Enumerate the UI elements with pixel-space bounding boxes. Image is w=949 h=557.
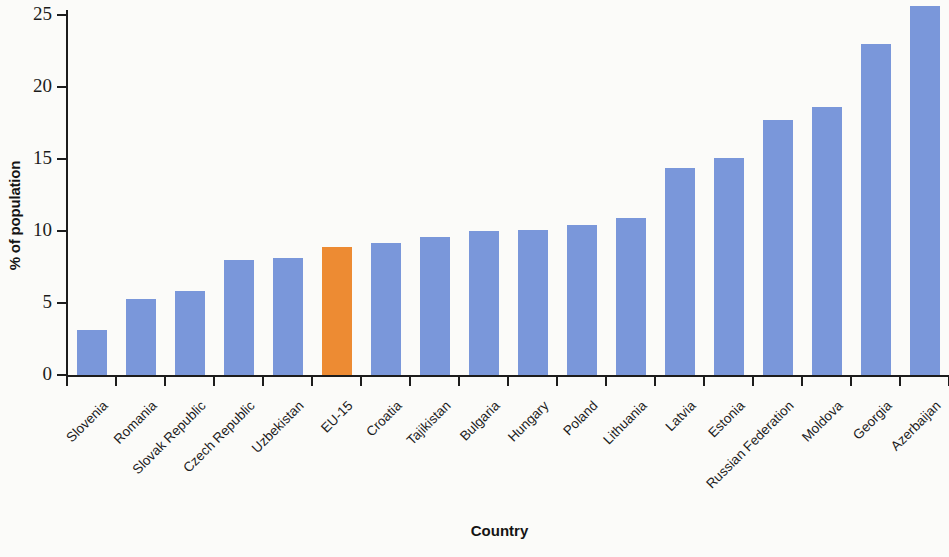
x-axis-label-eu-15: EU-15	[317, 398, 355, 436]
x-axis-label-moldova: Moldova	[798, 398, 845, 445]
bar-slovak-republic[interactable]	[175, 291, 205, 375]
x-axis-label-romania: Romania	[110, 398, 159, 447]
x-axis-tick	[66, 376, 68, 386]
x-axis-title-text: Country	[471, 522, 529, 539]
bar-poland[interactable]	[567, 225, 597, 375]
bar-russian-federation[interactable]	[763, 120, 793, 375]
x-axis-label-lithuania: Lithuania	[600, 398, 649, 447]
y-axis-tick: 10	[57, 230, 66, 232]
chart-canvas: % of population 0510152025 SloveniaRoman…	[0, 0, 949, 557]
x-axis-tick	[262, 376, 264, 386]
y-axis-tick: 20	[57, 86, 66, 88]
x-axis-label-latvia: Latvia	[662, 398, 698, 434]
x-axis-label-bulgaria: Bulgaria	[456, 398, 502, 444]
x-axis-label-azerbaijan: Azerbaijan	[887, 398, 943, 454]
x-axis-tick	[311, 376, 313, 386]
x-axis-tick	[360, 376, 362, 386]
y-axis-title: % of population	[0, 130, 30, 300]
x-axis-tick	[752, 376, 754, 386]
bar-latvia[interactable]	[665, 168, 695, 375]
bar-hungary[interactable]	[518, 230, 548, 375]
y-axis-tick-label: 20	[33, 75, 52, 97]
plot-area: 0510152025 SloveniaRomaniaSlovak Republi…	[66, 15, 949, 375]
y-axis-tick-label: 0	[43, 363, 53, 385]
x-axis-tick	[409, 376, 411, 386]
bar-moldova[interactable]	[812, 107, 842, 375]
y-axis-tick: 25	[57, 14, 66, 16]
x-axis-label-estonia: Estonia	[705, 398, 747, 440]
bar-lithuania[interactable]	[616, 218, 646, 375]
y-axis-tick: 5	[57, 302, 66, 304]
x-axis-tick	[801, 376, 803, 386]
y-axis-tick-label: 15	[33, 147, 52, 169]
x-axis-label-croatia: Croatia	[363, 398, 404, 439]
x-axis-tick	[556, 376, 558, 386]
bar-eu-15[interactable]	[322, 247, 352, 375]
x-axis-tick	[507, 376, 509, 386]
x-axis-tick	[850, 376, 852, 386]
x-axis-tick	[164, 376, 166, 386]
bar-bulgaria[interactable]	[469, 231, 499, 375]
x-axis-title: Country	[0, 522, 949, 539]
bar-azerbaijan[interactable]	[910, 6, 940, 375]
x-axis-tick	[605, 376, 607, 386]
y-axis-tick: 0	[57, 374, 66, 376]
bar-czech-republic[interactable]	[224, 260, 254, 375]
x-axis-tick	[899, 376, 901, 386]
x-axis-tick	[654, 376, 656, 386]
x-axis-tick	[213, 376, 215, 386]
bar-uzbekistan[interactable]	[273, 258, 303, 375]
x-axis-tick	[115, 376, 117, 386]
y-axis-line	[66, 10, 68, 377]
x-axis-label-russian-federation: Russian Federation	[703, 398, 796, 491]
y-axis-title-text: % of population	[7, 160, 24, 269]
bar-romania[interactable]	[126, 299, 156, 375]
bar-croatia[interactable]	[371, 243, 401, 375]
y-axis-tick-label: 25	[33, 3, 52, 25]
y-axis-tick: 15	[57, 158, 66, 160]
y-axis-tick-label: 10	[33, 219, 52, 241]
x-axis-label-slovenia: Slovenia	[63, 398, 110, 445]
x-axis-tick	[458, 376, 460, 386]
bar-estonia[interactable]	[714, 158, 744, 375]
bar-slovenia[interactable]	[77, 330, 107, 375]
bar-georgia[interactable]	[861, 44, 891, 375]
x-axis-tick	[703, 376, 705, 386]
y-axis-tick-label: 5	[43, 291, 53, 313]
x-axis-label-georgia: Georgia	[850, 398, 895, 443]
bar-tajikistan[interactable]	[420, 237, 450, 375]
x-axis-label-hungary: Hungary	[504, 398, 551, 445]
x-axis-label-poland: Poland	[560, 398, 600, 438]
x-axis-label-tajikistan: Tajikistan	[403, 398, 453, 448]
